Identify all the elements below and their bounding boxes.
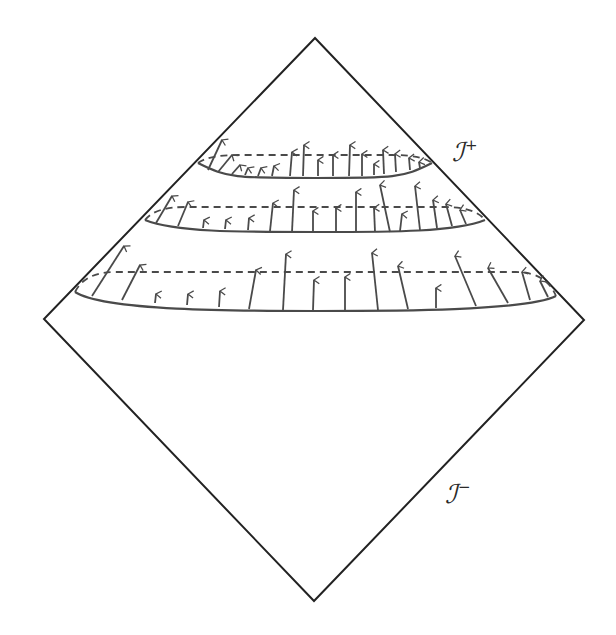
normal-vector-arrow-icon — [460, 210, 466, 224]
normal-vector-arrow-icon — [383, 150, 384, 174]
normal-vector-arrow-icon — [409, 158, 410, 170]
normal-vector-arrow-icon — [292, 190, 294, 232]
slice-front-edge — [75, 292, 556, 311]
normal-vector-arrow-icon — [225, 220, 226, 229]
normal-vector-arrow-icon — [187, 294, 188, 305]
slice-back-edge — [75, 272, 556, 296]
normal-vector-arrow-icon — [203, 220, 204, 228]
normal-vector-arrow-icon — [313, 280, 314, 310]
normal-vector-arrow-icon — [349, 145, 350, 176]
normal-vector-arrow-icon — [178, 202, 188, 226]
normal-vector-arrow-icon — [270, 203, 273, 231]
normal-vector-arrow-icon — [400, 214, 402, 231]
lower-slice — [75, 246, 556, 311]
normal-vector-arrow-icon — [283, 254, 286, 310]
penrose-diagram — [0, 0, 616, 635]
normal-vector-arrow-icon — [522, 272, 530, 300]
normal-vector-arrow-icon — [433, 200, 437, 228]
slice-front-edge — [198, 163, 432, 178]
normal-vector-arrow-icon — [245, 168, 248, 175]
spacetime-boundary-diamond — [44, 38, 584, 601]
normal-vector-arrow-icon — [372, 253, 378, 310]
upper-slice — [198, 140, 432, 178]
normal-vector-arrow-icon — [219, 291, 220, 307]
normal-vector-arrow-icon — [419, 162, 420, 168]
normal-vector-arrow-icon — [415, 186, 420, 230]
normal-vector-arrow-icon — [249, 270, 256, 309]
normal-vector-arrow-icon — [232, 165, 240, 174]
normal-vector-arrow-icon — [395, 154, 396, 172]
scri-minus-superscript: − — [458, 478, 471, 496]
normal-vector-arrow-icon — [248, 218, 249, 230]
normal-vector-arrow-icon — [455, 256, 476, 306]
slice-back-edge — [198, 155, 432, 163]
normal-vector-arrow-icon — [290, 152, 292, 176]
normal-vector-arrow-icon — [303, 145, 304, 176]
scri-minus-symbol: ℐ — [445, 479, 457, 509]
scri-plus-symbol: ℐ — [452, 137, 464, 167]
past-null-infinity-label: ℐ− — [445, 480, 471, 507]
normal-vector-arrow-icon — [374, 208, 375, 232]
middle-slice — [145, 185, 485, 232]
normal-vector-arrow-icon — [446, 204, 452, 226]
slice-front-edge — [145, 220, 485, 232]
normal-vector-arrow-icon — [218, 155, 232, 172]
future-null-infinity-label: ℐ+ — [452, 138, 478, 165]
normal-vector-arrow-icon — [380, 185, 390, 232]
normal-vector-arrow-icon — [208, 140, 222, 170]
scri-plus-superscript: + — [465, 136, 478, 154]
normal-vector-arrow-icon — [122, 265, 140, 300]
normal-vector-arrow-icon — [272, 166, 274, 176]
cauchy-slices — [75, 140, 556, 311]
normal-vector-arrow-icon — [155, 294, 156, 303]
normal-vector-arrow-icon — [488, 268, 508, 303]
normal-vector-arrow-icon — [258, 168, 261, 176]
